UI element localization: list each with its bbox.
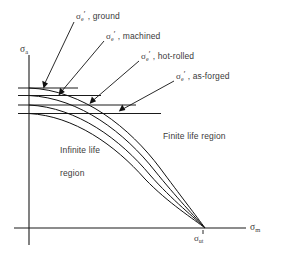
leader-hot-rolled (93, 61, 139, 101)
label-machined-separator: , (118, 31, 120, 41)
label-machined-condition: machined (123, 31, 161, 41)
infinite-life-line2: region (60, 168, 100, 178)
label-hot-rolled-separator: , (153, 51, 155, 61)
label-hot-rolled-condition: hot-rolled (158, 51, 194, 61)
label-ground-prime: ′ (84, 9, 86, 18)
leader-machined (62, 41, 105, 92)
x-axis-label: σm (250, 222, 260, 233)
label-machined-prime: ′ (114, 29, 116, 38)
infinite-life-line1: Infinite life (60, 145, 100, 155)
arrowhead-hot-rolled (90, 97, 97, 105)
region-label-infinite-life: Infinite life region (60, 145, 100, 178)
finite-life-line1: Finite life region (163, 131, 226, 141)
y-axis-label: σa (20, 44, 28, 55)
sigma-ut-subscript: ut (199, 238, 204, 244)
x-axis-subscript: m (255, 226, 260, 233)
leader-as-forged (123, 81, 174, 109)
label-hot-rolled-prime: ′ (149, 49, 151, 58)
region-label-finite-life: Finite life region (163, 131, 226, 141)
label-as-forged-separator: , (188, 71, 190, 81)
label-as-forged-condition: as-forged (193, 71, 230, 81)
label-ground-separator: , (88, 11, 90, 21)
y-axis-subscript: a (25, 48, 28, 55)
label-machined: σe′ , machined (106, 30, 160, 42)
label-hot-rolled: σe′ , hot-rolled (141, 50, 194, 62)
label-as-forged: σe′ , as-forged (176, 70, 230, 82)
label-ground: σe′ , ground (76, 10, 120, 22)
goodman-diagram: σa σm σut σe′ , ground σe′ , machined σe… (0, 0, 286, 264)
leader-ground (45, 22, 75, 84)
sigma-ut-label: σut (194, 233, 204, 244)
label-ground-condition: ground (93, 11, 120, 21)
label-as-forged-prime: ′ (184, 69, 186, 78)
